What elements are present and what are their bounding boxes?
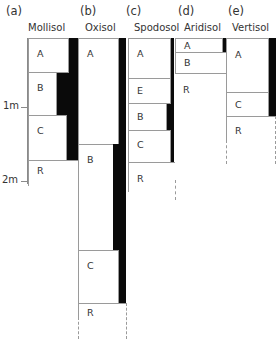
dashed-continuation [226, 140, 227, 164]
organic-bar [118, 38, 126, 303]
horizon-r: R [128, 162, 175, 192]
organic-bar [68, 38, 78, 72]
horizon-r: R [175, 73, 227, 103]
horizon-c: C [28, 115, 67, 161]
organic-bar [268, 38, 276, 116]
horizon-c: C [78, 250, 119, 304]
tick-label-1m: 1m [3, 100, 19, 111]
label-d: (d) [178, 4, 194, 18]
horizon-r: R [226, 116, 276, 142]
label-b: (b) [80, 4, 96, 18]
dashed-continuation [275, 116, 276, 164]
horizon-b: B [175, 52, 227, 74]
horizon-c: C [226, 92, 269, 117]
dashed-continuation [78, 317, 79, 339]
label-e: (e) [228, 4, 244, 18]
organic-bar [113, 144, 119, 250]
horizon-c: C [128, 130, 171, 163]
horizon-a: A [28, 38, 69, 73]
horizon-a: A [128, 38, 171, 79]
horizon-e: E [128, 78, 171, 104]
horizon-r: R [78, 303, 127, 317]
label-c: (c) [126, 4, 141, 18]
name-aridisol: Aridisol [184, 22, 221, 33]
organic-bar [66, 115, 78, 161]
tick-1m [21, 107, 28, 108]
horizon-b: B [78, 144, 114, 251]
horizon-b: B [128, 103, 167, 131]
name-spodosol: Spodosol [134, 22, 179, 33]
organic-bar [56, 72, 78, 115]
horizon-a: A [226, 38, 269, 93]
tick-2m [21, 181, 28, 182]
name-oxisol: Oxisol [85, 22, 116, 33]
horizon-a: A [78, 38, 119, 145]
organic-bar [166, 103, 174, 130]
tick-label-2m: 2m [2, 174, 18, 185]
horizon-b: B [28, 72, 57, 116]
horizon-a: A [175, 38, 223, 53]
label-a: (a) [6, 4, 22, 18]
name-mollisol: Mollisol [28, 22, 65, 33]
horizon-r: R [28, 160, 79, 186]
name-vertisol: Vertisol [232, 22, 269, 33]
dashed-continuation [175, 180, 176, 200]
dashed-continuation [126, 303, 127, 339]
